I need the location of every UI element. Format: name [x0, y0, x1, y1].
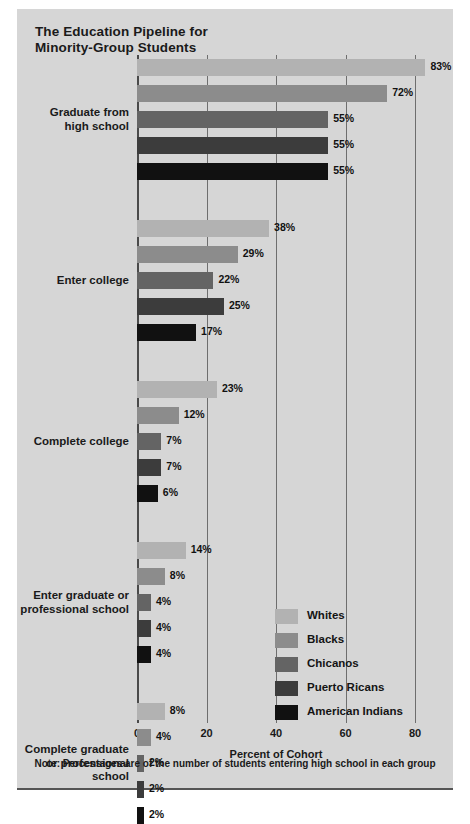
bar-value-label: 17%	[201, 325, 222, 337]
bar-row: 83%	[137, 59, 415, 76]
bar-blacks	[137, 407, 179, 424]
bar-row: 55%	[137, 111, 415, 128]
bar-row: 7%	[137, 459, 415, 476]
legend-swatch-icon	[275, 657, 298, 672]
bar-chicanos	[137, 433, 161, 450]
legend-label: Chicanos	[307, 657, 359, 669]
category-label-line: Complete graduate	[0, 743, 129, 757]
legend-item-chicanos[interactable]: Chicanos	[275, 655, 440, 679]
bar-puerto-ricans	[137, 620, 151, 637]
bar-blacks	[137, 85, 387, 102]
category-label-line: professional school	[0, 603, 129, 617]
bar-whites	[137, 703, 165, 720]
category-label-line: Graduate from	[0, 106, 129, 120]
bar-value-label: 8%	[170, 704, 185, 716]
category-label-line: Enter graduate or	[0, 589, 129, 603]
bar-row: 14%	[137, 542, 415, 559]
bar-chicanos	[137, 272, 213, 289]
bar-value-label: 12%	[184, 408, 205, 420]
bar-value-label: 2%	[149, 782, 164, 794]
bar-row: 55%	[137, 137, 415, 154]
legend-swatch-icon	[275, 705, 298, 720]
bar-value-label: 4%	[156, 647, 171, 659]
category-label-line: Complete college	[0, 435, 129, 449]
legend-label: Whites	[307, 609, 345, 621]
category-label-line: high school	[0, 120, 129, 134]
bar-puerto-ricans	[137, 298, 224, 315]
bar-american-indians	[137, 485, 158, 502]
chart-figure: The Education Pipeline for Minority-Grou…	[17, 9, 453, 790]
bar-chicanos	[137, 111, 328, 128]
bar-blacks	[137, 246, 238, 263]
chart-title-line-1: The Education Pipeline for	[35, 24, 365, 40]
bar-chicanos	[137, 594, 151, 611]
bar-blacks	[137, 568, 165, 585]
bar-value-label: 7%	[166, 434, 181, 446]
legend-label: American Indians	[307, 705, 403, 717]
bar-row: 23%	[137, 381, 415, 398]
category-label-1: Graduate fromhigh school	[0, 106, 129, 133]
bar-value-label: 55%	[333, 164, 354, 176]
legend-item-whites[interactable]: Whites	[275, 607, 440, 631]
legend-swatch-icon	[275, 681, 298, 696]
bar-row: 22%	[137, 272, 415, 289]
chart-legend: WhitesBlacksChicanosPuerto RicansAmerica…	[275, 607, 440, 727]
bar-row: 17%	[137, 324, 415, 341]
bar-row: 7%	[137, 433, 415, 450]
bar-american-indians	[137, 163, 328, 180]
page-title: The Education Pipeline for Minority-Grou…	[35, 24, 365, 56]
bar-value-label: 83%	[430, 60, 451, 72]
bar-american-indians	[137, 807, 144, 824]
bar-whites	[137, 542, 186, 559]
bar-blacks	[137, 729, 151, 746]
category-label-4: Enter graduate orprofessional school	[0, 589, 129, 616]
legend-item-puerto-ricans[interactable]: Puerto Ricans	[275, 679, 440, 703]
category-label-line: school	[0, 770, 129, 784]
bar-puerto-ricans	[137, 137, 328, 154]
bar-value-label: 25%	[229, 299, 250, 311]
chart-title-line-2: Minority-Group Students	[35, 40, 365, 56]
bar-american-indians	[137, 324, 196, 341]
bar-row: 8%	[137, 568, 415, 585]
bar-row: 2%	[137, 807, 415, 824]
bar-row: 6%	[137, 485, 415, 502]
bar-row: 25%	[137, 298, 415, 315]
bar-row: 38%	[137, 220, 415, 237]
bar-value-label: 22%	[218, 273, 239, 285]
bar-row: 2%	[137, 781, 415, 798]
legend-item-american-indians[interactable]: American Indians	[275, 703, 440, 727]
legend-label: Blacks	[307, 633, 344, 645]
bar-value-label: 38%	[274, 221, 295, 233]
bar-value-label: 29%	[243, 247, 264, 259]
legend-swatch-icon	[275, 609, 298, 624]
bar-whites	[137, 381, 217, 398]
bar-value-label: 55%	[333, 138, 354, 150]
legend-swatch-icon	[275, 633, 298, 648]
bar-value-label: 4%	[156, 621, 171, 633]
bar-value-label: 14%	[191, 543, 212, 555]
bar-value-label: 72%	[392, 86, 413, 98]
bar-whites	[137, 59, 425, 76]
category-label-line: Enter college	[0, 274, 129, 288]
bar-value-label: 4%	[156, 595, 171, 607]
bar-value-label: 6%	[163, 486, 178, 498]
legend-item-blacks[interactable]: Blacks	[275, 631, 440, 655]
bar-value-label: 8%	[170, 569, 185, 581]
bar-row: 12%	[137, 407, 415, 424]
bar-value-label: 2%	[149, 808, 164, 820]
bar-row: 29%	[137, 246, 415, 263]
bar-value-label: 55%	[333, 112, 354, 124]
bar-value-label: 4%	[156, 730, 171, 742]
bar-puerto-ricans	[137, 459, 161, 476]
bar-row: 55%	[137, 163, 415, 180]
bar-value-label: 7%	[166, 460, 181, 472]
chart-note: Note: Percentages are of the number of s…	[17, 758, 453, 769]
bar-american-indians	[137, 646, 151, 663]
category-label-2: Enter college	[0, 274, 129, 288]
bar-value-label: 23%	[222, 382, 243, 394]
bar-puerto-ricans	[137, 781, 144, 798]
legend-label: Puerto Ricans	[307, 681, 384, 693]
bar-row: 4%	[137, 729, 415, 746]
bar-whites	[137, 220, 269, 237]
category-label-3: Complete college	[0, 435, 129, 449]
